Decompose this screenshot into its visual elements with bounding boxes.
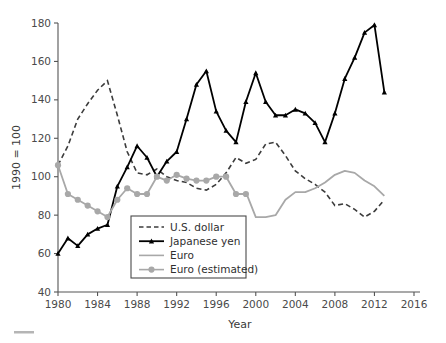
x-tick-label: 2012: [361, 298, 388, 310]
data-point-marker-jpy: [65, 236, 70, 241]
scan-artifact-mark: [14, 331, 34, 334]
data-point-marker-euro-estimated: [114, 197, 120, 203]
data-point-marker-euro-estimated: [203, 177, 209, 183]
y-tick-label: 100: [31, 170, 51, 182]
data-point-marker-euro-estimated: [75, 197, 81, 203]
y-tick-label: 120: [31, 132, 51, 144]
data-point-marker-euro-estimated: [144, 191, 150, 197]
y-axis-title: 1990 = 100: [10, 125, 23, 190]
data-point-marker-jpy: [382, 90, 387, 95]
y-axis-ticks: 406080100120140160180: [31, 17, 58, 298]
data-point-marker-jpy: [214, 109, 219, 114]
legend-item-label: Euro (estimated): [170, 263, 258, 275]
data-point-marker-euro-estimated: [85, 202, 91, 208]
line-chart-svg: 406080100120140160180 198019841988199219…: [0, 0, 446, 343]
legend-marker-circle-icon: [148, 267, 154, 273]
y-tick-label: 180: [31, 17, 51, 29]
legend-item-label: Japanese yen: [169, 235, 240, 247]
data-point-marker-euro-estimated: [164, 177, 170, 183]
data-point-marker-euro-estimated: [223, 174, 229, 180]
series-line-usd: [58, 81, 384, 217]
x-tick-label: 1988: [124, 298, 151, 310]
x-tick-label: 2004: [282, 298, 309, 310]
data-point-marker-jpy: [243, 99, 248, 104]
data-point-marker-euro-estimated: [94, 208, 100, 214]
x-axis-title: Year: [227, 318, 252, 331]
x-tick-label: 1980: [45, 298, 72, 310]
data-point-marker-jpy: [253, 70, 258, 75]
data-point-marker-euro-estimated: [134, 191, 140, 197]
legend-item-label: Euro: [170, 249, 194, 261]
y-tick-label: 160: [31, 55, 51, 67]
data-point-marker-jpy: [352, 55, 357, 60]
data-point-marker-euro-estimated: [154, 174, 160, 180]
x-tick-label: 1996: [203, 298, 230, 310]
data-point-marker-euro-estimated: [124, 185, 130, 191]
data-point-marker-euro-estimated: [243, 191, 249, 197]
data-point-marker-euro-estimated: [174, 172, 180, 178]
data-point-marker-euro-estimated: [55, 162, 61, 168]
x-axis-ticks: 1980198419881992199620002004200820122016: [45, 292, 428, 310]
data-point-marker-euro-estimated: [65, 191, 71, 197]
data-point-marker-euro-estimated: [213, 174, 219, 180]
data-point-marker-jpy: [184, 116, 189, 121]
legend-item-label: U.S. dollar: [170, 221, 225, 233]
y-tick-label: 60: [38, 247, 51, 259]
x-tick-label: 1984: [84, 298, 111, 310]
data-point-marker-jpy: [332, 111, 337, 116]
data-point-marker-jpy: [204, 68, 209, 73]
x-tick-label: 2008: [322, 298, 349, 310]
chart-figure: 406080100120140160180 198019841988199219…: [0, 0, 446, 343]
data-point-marker-euro-estimated: [193, 177, 199, 183]
series-line-euro: [246, 171, 384, 217]
data-point-marker-jpy: [174, 149, 179, 154]
x-tick-label: 2000: [242, 298, 269, 310]
data-point-marker-jpy: [135, 143, 140, 148]
y-tick-label: 40: [38, 286, 51, 298]
series-line-euro-estimated: [58, 165, 246, 217]
data-point-marker-jpy: [372, 22, 377, 27]
y-tick-label: 140: [31, 93, 51, 105]
data-point-marker-jpy: [263, 99, 268, 104]
x-tick-label: 2016: [401, 298, 428, 310]
data-point-marker-euro-estimated: [183, 176, 189, 182]
x-tick-label: 1992: [163, 298, 190, 310]
data-point-marker-euro-estimated: [104, 214, 110, 220]
data-point-marker-euro-estimated: [233, 191, 239, 197]
y-tick-label: 80: [38, 209, 51, 221]
chart-legend: U.S. dollarJapanese yenEuroEuro (estimat…: [131, 216, 258, 278]
